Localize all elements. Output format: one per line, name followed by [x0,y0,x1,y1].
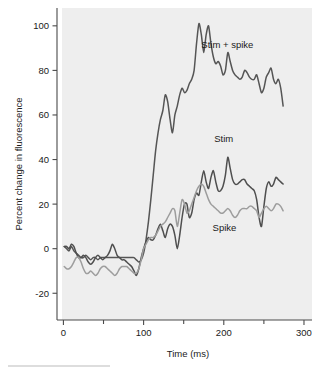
series-label-spike: Spike [213,222,237,233]
y-tick-label: 20 [38,199,49,210]
y-tick-label: 60 [38,109,49,120]
chart-figure: -20020406080100 0100200300 Percent chang… [0,0,330,372]
y-tick-label: 0 [44,243,49,254]
y-tick-label: 40 [38,154,49,165]
series-label-stim: Stim [214,133,233,144]
series-label-stim-spike: Stim + spike [201,39,253,50]
y-tick-label: -20 [35,288,49,299]
x-tick-label: 100 [136,327,152,338]
plot-area-background [62,8,312,320]
x-tick-label: 300 [296,327,312,338]
y-tick-label: 80 [38,65,49,76]
x-tick-label: 200 [216,327,232,338]
x-tick-label: 0 [61,327,66,338]
y-axis-label: Percent change in fluorescence [13,97,24,230]
y-tick-label: 100 [33,20,49,31]
x-axis-label: Time (ms) [167,348,209,359]
